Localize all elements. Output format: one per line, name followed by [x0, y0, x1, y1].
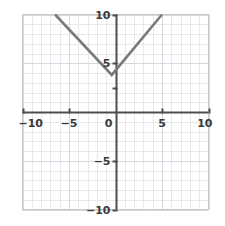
y-tick-label: 5: [103, 57, 111, 70]
x-tick-label: 5: [158, 117, 166, 130]
x-tick-label: −10: [19, 117, 44, 130]
coordinate-plane-chart: −10−50510105−5−10: [0, 0, 225, 226]
graph-figure: −10−50510105−5−10: [0, 0, 225, 226]
x-tick-label: 10: [197, 117, 213, 130]
x-tick-label: 0: [105, 117, 113, 130]
x-tick-label: −5: [61, 117, 78, 130]
y-tick-label: −5: [94, 155, 111, 168]
y-tick-label: 10: [95, 9, 111, 22]
y-tick-label: −10: [86, 204, 111, 217]
